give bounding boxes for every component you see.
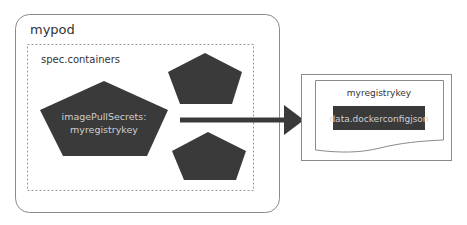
main-container-label-line1: imagePullSecrets: (62, 111, 147, 122)
containers-title: spec.containers (41, 54, 120, 65)
main-container-label-line2: myregistrykey (70, 124, 138, 135)
diagram-canvas: mypod spec.containers imagePullSecrets: … (0, 0, 467, 225)
pod-title: mypod (30, 22, 75, 37)
secret-title: myregistrykey (347, 88, 412, 98)
secret-data-field-label: data.dockerconfigjson (329, 114, 428, 124)
